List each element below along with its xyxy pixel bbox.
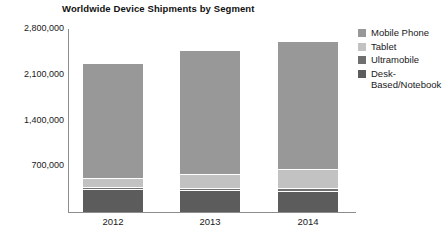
legend-item[interactable]: Desk-Based/Notebook — [358, 68, 448, 91]
legend-label: Tablet — [371, 41, 396, 53]
x-axis-line — [68, 212, 356, 213]
legend-item[interactable]: Ultramobile — [358, 54, 448, 66]
bar-segment[interactable] — [180, 51, 240, 175]
stacked-bar[interactable] — [83, 64, 143, 212]
bar-segment[interactable] — [278, 192, 338, 212]
x-axis-tick-label: 2012 — [83, 216, 143, 227]
legend-label: Ultramobile — [371, 54, 419, 66]
legend-item[interactable]: Tablet — [358, 41, 448, 53]
legend-swatch-icon — [358, 43, 366, 51]
legend-swatch-icon — [358, 70, 366, 78]
chart-legend: Mobile PhoneTabletUltramobileDesk-Based/… — [358, 27, 448, 93]
y-axis-tick-label: 1,400,000 — [2, 115, 64, 125]
legend-swatch-icon — [358, 29, 366, 37]
stacked-bar[interactable] — [180, 51, 240, 212]
legend-label: Mobile Phone — [371, 27, 429, 39]
plot-area — [68, 29, 355, 212]
bar-segment[interactable] — [83, 64, 143, 179]
chart-container: Worldwide Device Shipments by Segment 70… — [0, 0, 448, 240]
bar-group — [180, 29, 240, 212]
legend-label: Desk-Based/Notebook — [371, 68, 448, 91]
chart-title: Worldwide Device Shipments by Segment — [62, 3, 255, 14]
legend-item[interactable]: Mobile Phone — [358, 27, 448, 39]
x-axis-tick-label: 2014 — [278, 216, 338, 227]
y-axis-tick-labels: 700,0001,400,0002,100,0002,800,000 — [0, 0, 64, 240]
bar-segment[interactable] — [180, 191, 240, 212]
bar-segment[interactable] — [83, 190, 143, 212]
bar-group — [278, 29, 338, 212]
bar-segment[interactable] — [278, 170, 338, 188]
y-axis-tick-label: 700,000 — [2, 160, 64, 170]
y-axis-tick-label: 2,100,000 — [2, 69, 64, 79]
bar-group — [83, 29, 143, 212]
stacked-bar[interactable] — [278, 42, 338, 212]
bar-segment[interactable] — [278, 42, 338, 170]
y-axis-tick-label: 2,800,000 — [2, 23, 64, 33]
bar-segment[interactable] — [180, 175, 240, 189]
legend-swatch-icon — [358, 56, 366, 64]
bar-segment[interactable] — [83, 179, 143, 188]
x-axis-tick-label: 2013 — [180, 216, 240, 227]
